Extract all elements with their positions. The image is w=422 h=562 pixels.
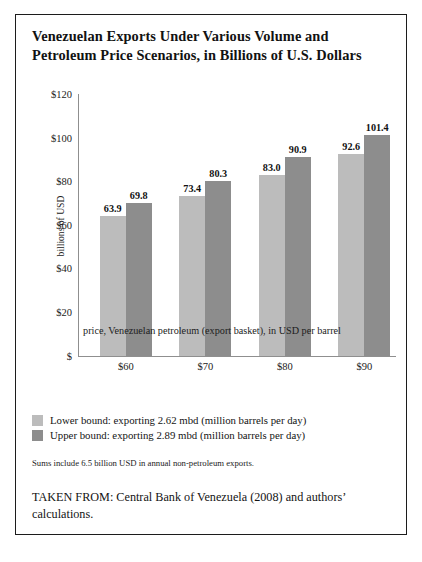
bar-value-label: 83.0 [263, 162, 281, 173]
x-axis-tick-label: $60 [118, 361, 134, 372]
legend-item-label: Upper bound: exporting 2.89 mbd (million… [50, 429, 305, 441]
bar-value-label: 92.6 [342, 141, 360, 152]
x-axis-tick-label: $70 [197, 361, 213, 372]
y-axis-tick-label: $ [67, 350, 72, 361]
y-axis-line [78, 94, 79, 357]
x-axis-tick-label: $80 [277, 361, 293, 372]
bar-value-label: 69.8 [130, 190, 148, 201]
legend-swatch-icon [32, 415, 43, 426]
bar-group: 83.090.9$80 [259, 94, 311, 356]
bar-value-label: 63.9 [104, 203, 122, 214]
y-axis-tick-label: $80 [56, 176, 72, 187]
bar-value-label: 73.4 [183, 183, 201, 194]
y-axis-tick-label: $40 [56, 263, 72, 274]
legend-swatch-icon [32, 430, 43, 441]
bar-upper[interactable]: 101.4 [364, 135, 390, 356]
y-axis-tick-label: $120 [51, 89, 72, 100]
legend-item[interactable]: Upper bound: exporting 2.89 mbd (million… [32, 429, 392, 441]
x-axis-line [78, 356, 396, 357]
x-axis-tick-label: $90 [356, 361, 372, 372]
sums-note: Sums include 6.5 billion USD in annual n… [32, 458, 392, 468]
plot-area: billions of USD $$20$40$60$80$100$120 63… [78, 94, 396, 357]
figure-frame: Venezuelan Exports Under Various Volume … [15, 14, 407, 535]
bar-value-label: 90.9 [289, 144, 307, 155]
y-axis-tick-label: $100 [51, 132, 72, 143]
bar-group: 63.969.8$60 [100, 94, 152, 356]
bar-value-label: 101.4 [366, 122, 389, 133]
bar-group: 73.480.3$70 [179, 94, 231, 356]
legend-item-label: Lower bound: exporting 2.62 mbd (million… [50, 414, 306, 426]
legend: Lower bound: exporting 2.62 mbd (million… [32, 414, 392, 444]
bar-value-label: 80.3 [209, 168, 227, 179]
y-axis-tick-label: $60 [56, 219, 72, 230]
bar-group: 92.6101.4$90 [338, 94, 390, 356]
y-axis-tick-label: $20 [56, 307, 72, 318]
legend-item[interactable]: Lower bound: exporting 2.62 mbd (million… [32, 414, 392, 426]
page-title: Venezuelan Exports Under Various Volume … [32, 27, 392, 65]
source-note: TAKEN FROM: Central Bank of Venezuela (2… [32, 489, 387, 523]
x-axis-title: price, Venezuelan petroleum (export bask… [16, 325, 408, 336]
